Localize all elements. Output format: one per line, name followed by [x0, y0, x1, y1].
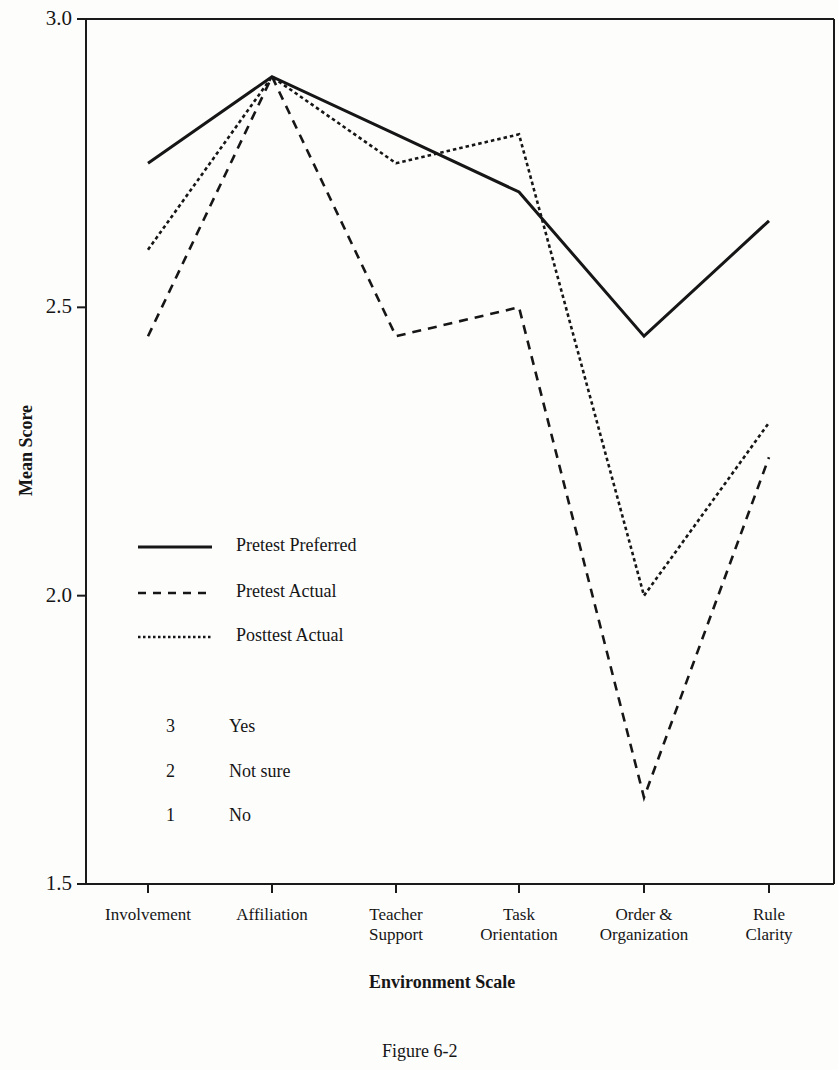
scale-key-value: 1: [166, 805, 175, 826]
x-tick-label-line: Clarity: [699, 925, 838, 945]
series-pretest-preferred: [148, 77, 769, 337]
x-tick-label: TaskOrientation: [449, 905, 589, 945]
series-posttest-actual: [148, 77, 769, 596]
x-tick-label-line: Organization: [574, 925, 714, 945]
x-tick-label: Order &Organization: [574, 905, 714, 945]
figure-caption: Figure 6-2: [382, 1041, 458, 1062]
y-tick-label: 1.5: [12, 871, 72, 896]
y-tick-label: 2.5: [12, 294, 72, 319]
x-tick-label-line: Affiliation: [202, 905, 342, 925]
scale-key-value: 3: [166, 716, 175, 737]
x-tick-label-line: Orientation: [449, 925, 589, 945]
scale-key-value: 2: [166, 761, 175, 782]
x-tick-label: Involvement: [78, 905, 218, 925]
series-pretest-actual: [148, 77, 769, 798]
y-tick-label: 2.0: [12, 583, 72, 608]
scale-key-label: Yes: [229, 716, 255, 737]
x-tick-label-line: Order &: [574, 905, 714, 925]
series-lines: [148, 77, 769, 798]
scale-key-label: Not sure: [229, 761, 291, 782]
x-tick-label-line: Rule: [699, 905, 838, 925]
y-axis-title: Mean Score: [16, 401, 37, 501]
scale-key-label: No: [229, 805, 251, 826]
x-axis-ticks: [148, 884, 769, 893]
legend-label: Pretest Actual: [236, 581, 336, 602]
x-tick-label-line: Teacher: [326, 905, 466, 925]
x-tick-label: Affiliation: [202, 905, 342, 925]
y-axis-ticks: [77, 19, 86, 884]
x-tick-label: TeacherSupport: [326, 905, 466, 945]
legend-swatches: [138, 547, 212, 637]
x-tick-label-line: Support: [326, 925, 466, 945]
y-tick-label: 3.0: [12, 6, 72, 31]
x-axis-title: Environment Scale: [369, 972, 515, 993]
legend-label: Posttest Actual: [236, 625, 344, 646]
x-tick-label-line: Task: [449, 905, 589, 925]
legend-label: Pretest Preferred: [236, 535, 356, 556]
x-tick-label-line: Involvement: [78, 905, 218, 925]
x-tick-label: RuleClarity: [699, 905, 838, 945]
